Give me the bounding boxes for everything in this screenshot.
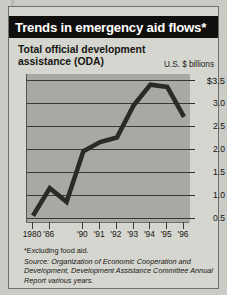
x-axis-tick-label: '91 <box>94 229 105 239</box>
oda-line-series <box>27 74 190 222</box>
x-axis-tick-label: '93 <box>127 229 138 239</box>
x-axis-labels: 1980'86'90'91'92'93'94'95'96 <box>10 229 210 241</box>
chart-subtitle-line1: Total official development <box>18 44 146 56</box>
y-axis-labels: $3.53.02.52.01.51.00.5 <box>192 66 225 226</box>
chart-subtitle: Total official development assistance (O… <box>18 44 146 67</box>
x-axis-tick <box>32 222 33 229</box>
source-body: Organization of Economic Cooperation and… <box>24 257 213 285</box>
source-prefix: Source: <box>24 257 49 266</box>
x-axis-tick-label: 1980 <box>23 229 42 239</box>
x-axis-tick-label: '96 <box>178 229 189 239</box>
plot-area <box>26 74 190 222</box>
chart-title-bar: Trends in emergency aid flows* <box>9 16 218 38</box>
x-axis-tick <box>133 222 134 229</box>
y-axis-tick-label: 2.0 <box>213 144 225 154</box>
x-axis-tick-label: '95 <box>161 229 172 239</box>
x-axis-tick-label: '90 <box>77 229 88 239</box>
y-axis-tick-label: 0.5 <box>213 213 225 223</box>
x-axis-tick <box>49 222 50 229</box>
page-title: Trends in emergency aid flows* <box>9 20 206 35</box>
x-axis-tick-label: '94 <box>144 229 155 239</box>
infographic-root: DAVID CONSTANTINE Trends in emergency ai… <box>0 0 227 295</box>
x-axis-tick <box>116 222 117 229</box>
y-axis-tick-label: $3.5 <box>207 75 225 86</box>
x-axis-tick-label: '86 <box>43 229 54 239</box>
footnote: *Excluding food aid. <box>24 246 214 255</box>
y-axis-tick-label: 1.0 <box>213 190 225 200</box>
x-axis-tick <box>149 222 150 229</box>
x-axis-tick <box>82 222 83 229</box>
x-axis-tick <box>99 222 100 229</box>
y-axis-tick-label: 2.5 <box>213 121 225 131</box>
y-axis-tick-label: 1.5 <box>213 167 225 177</box>
chart-subtitle-line2: assistance (ODA) <box>18 56 146 68</box>
x-axis-ticks <box>26 222 189 229</box>
y-axis-tick-label: 3.0 <box>213 98 225 108</box>
x-axis-tick <box>166 222 167 229</box>
x-axis-tick <box>183 222 184 229</box>
x-axis-tick-label: '92 <box>110 229 121 239</box>
source-note: Source: Organization of Economic Coopera… <box>24 257 214 285</box>
